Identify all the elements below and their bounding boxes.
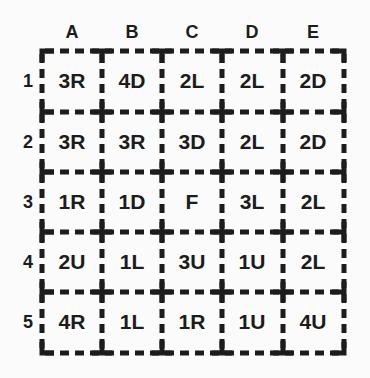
cell-e2[interactable]: 2D <box>283 112 343 172</box>
cell-b3[interactable]: 1D <box>102 172 162 232</box>
cell-c2[interactable]: 3D <box>162 112 222 172</box>
cell-c3-finish[interactable]: F <box>162 172 222 232</box>
cell-a1[interactable]: 3R <box>42 51 102 111</box>
cell-e1[interactable]: 2D <box>283 51 343 111</box>
row-label-5: 5 <box>18 312 38 332</box>
cell-a2[interactable]: 3R <box>42 112 102 172</box>
cell-b5[interactable]: 1L <box>102 292 162 352</box>
column-label-b: B <box>102 22 162 42</box>
cell-d2[interactable]: 2L <box>222 112 282 172</box>
cell-b1[interactable]: 4D <box>102 51 162 111</box>
column-label-c: C <box>162 22 222 42</box>
cell-d1[interactable]: 2L <box>222 51 282 111</box>
cell-d5[interactable]: 1U <box>222 292 282 352</box>
cell-a3[interactable]: 1R <box>42 172 102 232</box>
cell-c5[interactable]: 1R <box>162 292 222 352</box>
column-label-d: D <box>222 22 282 42</box>
cell-b2[interactable]: 3R <box>102 112 162 172</box>
column-label-a: A <box>42 22 102 42</box>
cell-c1[interactable]: 2L <box>162 51 222 111</box>
column-label-e: E <box>283 22 343 42</box>
cell-d3[interactable]: 3L <box>222 172 282 232</box>
cell-c4[interactable]: 3U <box>162 232 222 292</box>
cell-e3[interactable]: 2L <box>283 172 343 232</box>
row-label-4: 4 <box>18 252 38 272</box>
cell-e4[interactable]: 2L <box>283 232 343 292</box>
cell-e5[interactable]: 4U <box>283 292 343 352</box>
row-label-1: 1 <box>18 71 38 91</box>
cell-a4[interactable]: 2U <box>42 232 102 292</box>
cell-a5[interactable]: 4R <box>42 292 102 352</box>
row-label-3: 3 <box>18 192 38 212</box>
cell-b4[interactable]: 1L <box>102 232 162 292</box>
row-label-2: 2 <box>18 132 38 152</box>
cell-d4[interactable]: 1U <box>222 232 282 292</box>
